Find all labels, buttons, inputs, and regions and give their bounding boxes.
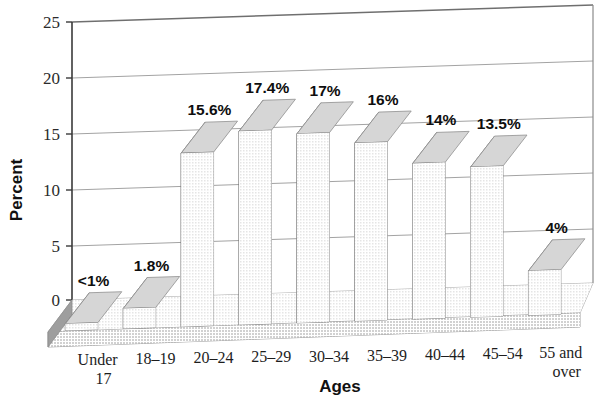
- x-tick-label: 25–29: [251, 348, 291, 365]
- chart-svg: <1%1.8%15.6%17.4%17%16%14%13.5%4% 25 20 …: [0, 0, 606, 411]
- bar-data-label: 14%: [425, 111, 456, 128]
- bar-data-label: 1.8%: [134, 257, 170, 274]
- x-tick-label: 40–44: [425, 346, 465, 363]
- bar-data-label: 15.6%: [187, 101, 231, 118]
- y-tick-label: 5: [52, 237, 61, 256]
- y-tick-label: 15: [43, 125, 60, 144]
- bar-data-label: <1%: [78, 272, 110, 289]
- bar-data-label: 16%: [367, 91, 398, 108]
- y-tick-label: 25: [43, 13, 60, 32]
- y-tick-label: 20: [43, 69, 60, 88]
- y-tick-label: 0: [52, 291, 61, 310]
- y-axis-title: Percent: [7, 158, 26, 221]
- x-tick-label: 30–34: [309, 348, 349, 365]
- bar-data-label: 13.5%: [477, 115, 521, 132]
- x-tick-label: 45–54: [483, 345, 523, 362]
- x-tick-label: 18–19: [136, 350, 176, 367]
- bar-data-label: 17%: [310, 82, 341, 99]
- bar-chart: <1%1.8%15.6%17.4%17%16%14%13.5%4% 25 20 …: [0, 0, 606, 411]
- x-tick-label: 35–39: [367, 347, 407, 364]
- y-tick-label: 10: [43, 181, 60, 200]
- bar-data-label: 17.4%: [245, 79, 289, 96]
- x-axis-title: Ages: [319, 377, 361, 396]
- x-tick-label: 20–24: [193, 349, 233, 366]
- bar-data-label: 4%: [545, 219, 568, 236]
